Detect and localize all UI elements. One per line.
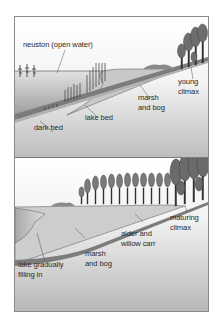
label-marsh-bog-2: and bog (138, 104, 165, 113)
label-young-climax-1: young (178, 78, 198, 87)
label-alder-willow-2: willow carr (121, 240, 155, 249)
label-lake-filling-2: filling in (18, 271, 42, 280)
label-young-climax-2: climax (178, 88, 199, 97)
panel-later-stage: lake gradually filling in marsh and bog … (15, 158, 208, 311)
label-marsh-bog-2: and bog (85, 260, 112, 269)
panel-early-stage: neuston (open water) dark bed lake bed m… (15, 17, 208, 158)
label-dark-bed: dark bed (34, 124, 63, 133)
label-maturing-climax-1: maturing (170, 214, 199, 223)
later-stage-illustration (15, 158, 208, 311)
diagram-frame: neuston (open water) dark bed lake bed m… (14, 16, 209, 312)
label-maturing-climax-2: climax (170, 224, 191, 233)
label-lake-filling-1: lake gradually (18, 261, 63, 270)
label-lake-bed: lake bed (85, 114, 113, 123)
label-neuston: neuston (open water) (23, 41, 93, 50)
label-alder-willow-1: alder and (121, 230, 152, 239)
label-marsh-bog-1: marsh (85, 250, 106, 259)
label-marsh-bog-1: marsh (138, 94, 159, 103)
